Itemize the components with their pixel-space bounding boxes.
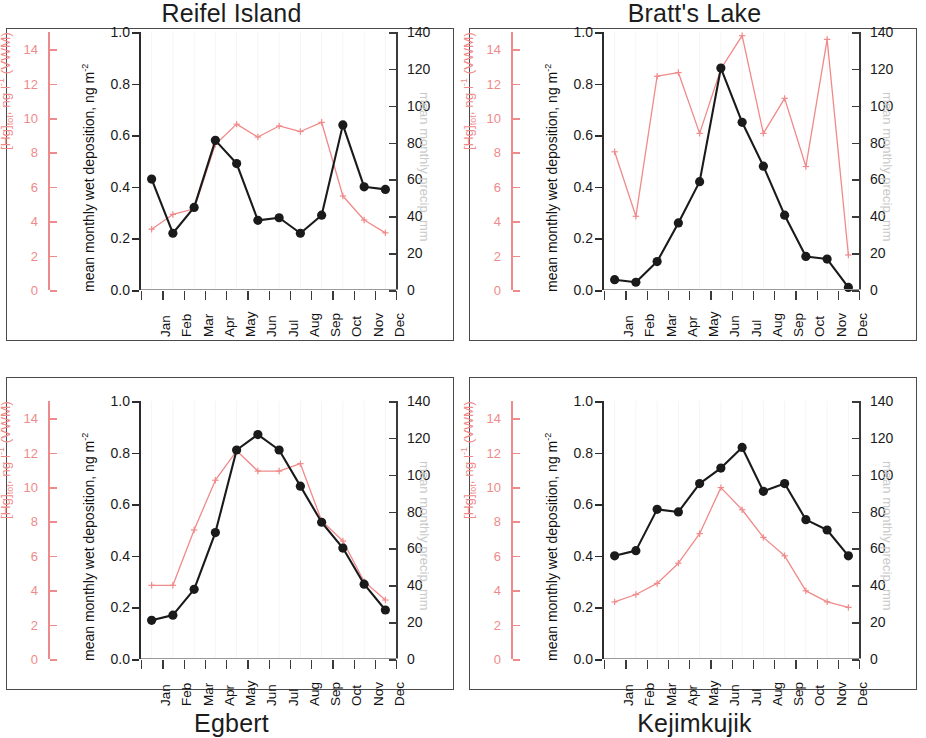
deposition-marker: [653, 505, 662, 514]
axis-tick: [132, 504, 139, 506]
month-tick: [795, 291, 796, 300]
plot-area: [604, 32, 859, 290]
month-label-mar: Mar: [201, 683, 216, 706]
deposition-line: [152, 435, 386, 621]
panel-title-kejimkujik: Kejimkujik: [463, 709, 926, 738]
deposition-marker: [801, 252, 810, 261]
month-label-nov: Nov: [371, 313, 386, 337]
deposition-marker: [738, 118, 747, 127]
month-tick: [396, 291, 397, 300]
axis-tick-label: 0: [494, 652, 501, 667]
month-tick: [604, 660, 605, 669]
deposition-marker: [147, 174, 156, 183]
deposition-marker: [253, 216, 262, 225]
month-axis: JanFebMarAprMayJunJulAugSepOctNovDec: [141, 291, 396, 343]
month-label-jan: Jan: [621, 684, 636, 706]
deposition-marker: [716, 463, 725, 472]
deposition-marker: [232, 445, 241, 454]
axis-tick: [513, 84, 520, 86]
hg-axis: 02468101214: [511, 401, 513, 659]
precip-marker: [297, 460, 303, 466]
month-label-dec: Dec: [855, 682, 870, 706]
hg-axis: 02468101214: [511, 32, 513, 290]
panel-title-reifel-island: Reifel Island: [0, 0, 463, 28]
precip-marker: [760, 130, 766, 136]
month-label-sep: Sep: [791, 313, 806, 337]
axis-tick-label: 8: [494, 514, 501, 529]
month-tick: [332, 291, 333, 300]
axis-tick-label: 0.2: [574, 599, 593, 615]
month-label-aug: Aug: [770, 682, 785, 706]
deposition-marker: [232, 159, 241, 168]
month-tick: [205, 291, 206, 300]
axis-tick-label: 12: [487, 76, 501, 91]
month-label-feb: Feb: [179, 314, 194, 337]
deposition-marker: [381, 605, 390, 614]
month-tick: [817, 291, 818, 300]
precip-axis-title: mean monthly precip, mm: [880, 92, 895, 242]
series-canvas: [604, 401, 859, 659]
axis-tick: [513, 625, 520, 627]
deposition-marker: [631, 278, 640, 287]
month-tick: [732, 660, 733, 669]
month-tick: [162, 291, 163, 300]
axis-tick-label: 0.4: [111, 548, 130, 564]
month-label-nov: Nov: [834, 313, 849, 337]
month-tick: [625, 291, 626, 300]
precip-axis: 020406080100120140: [859, 32, 861, 290]
axis-tick-label: 140: [870, 393, 893, 409]
precip-marker: [696, 130, 702, 136]
axis-tick: [513, 487, 520, 489]
axis-tick-label: 10: [487, 480, 501, 495]
axis-tick: [50, 590, 57, 592]
month-tick: [311, 660, 312, 669]
deposition-marker: [253, 430, 262, 439]
precip-line: [615, 36, 849, 255]
axis-tick-label: 120: [870, 61, 893, 77]
month-tick: [668, 660, 669, 669]
panel-bratts-lake: Bratt's Lake 02468101214 [Hg]tot, ng l-1…: [463, 0, 926, 369]
axis-tick: [50, 487, 57, 489]
deposition-marker: [381, 185, 390, 194]
axis-tick-label: 14: [24, 411, 38, 426]
month-label-jul: Jul: [749, 689, 764, 706]
axis-tick-label: 4: [494, 583, 501, 598]
month-tick: [205, 660, 206, 669]
precip-marker: [382, 230, 388, 236]
month-tick: [838, 660, 839, 669]
deposition-marker: [360, 182, 369, 191]
deposition-marker: [296, 229, 305, 238]
month-label-jan: Jan: [621, 315, 636, 337]
month-label-oct: Oct: [349, 316, 364, 337]
axis-tick-label: 4: [31, 214, 38, 229]
month-tick: [710, 660, 711, 669]
axis-tick: [50, 256, 57, 258]
deposition-marker: [211, 136, 220, 145]
month-tick: [817, 660, 818, 669]
axis-tick: [50, 625, 57, 627]
axis-tick: [132, 659, 139, 661]
month-tick: [269, 660, 270, 669]
month-label-aug: Aug: [770, 313, 785, 337]
deposition-axis-title: mean monthly wet deposition, ng m-2: [80, 64, 97, 292]
axis-tick-label: 0.6: [111, 127, 130, 143]
deposition-marker: [275, 445, 284, 454]
precip-line: [152, 451, 386, 600]
axis-tick: [50, 118, 57, 120]
panel-title-egbert: Egbert: [0, 709, 463, 738]
precip-marker: [191, 527, 197, 533]
axis-tick-label: 14: [24, 42, 38, 57]
axis-tick: [50, 152, 57, 154]
precip-marker: [633, 591, 639, 597]
axis-tick: [513, 659, 520, 661]
axis-tick: [595, 401, 602, 403]
axis-tick: [132, 556, 139, 558]
axis-tick: [595, 556, 602, 558]
axis-tick-label: 140: [870, 24, 893, 40]
month-label-oct: Oct: [349, 685, 364, 706]
axis-tick: [513, 118, 520, 120]
axis-tick-label: 6: [31, 548, 38, 563]
axis-tick-label: 6: [494, 548, 501, 563]
month-tick: [625, 660, 626, 669]
month-tick: [247, 291, 248, 300]
